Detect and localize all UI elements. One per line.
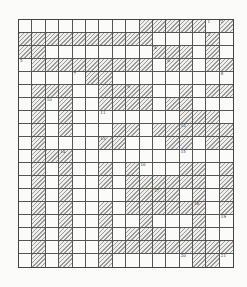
grid-cell[interactable] [19,111,32,124]
grid-cell[interactable] [86,124,99,137]
grid-cell[interactable] [73,124,86,137]
grid-cell[interactable] [86,150,99,163]
grid-cell[interactable] [99,46,112,59]
grid-cell[interactable] [19,85,32,98]
grid-cell[interactable] [73,46,86,59]
grid-cell[interactable] [73,98,86,111]
grid-cell[interactable] [206,176,219,189]
grid-cell[interactable] [99,20,112,33]
grid-cell[interactable] [193,98,206,111]
grid-cell[interactable] [153,59,166,72]
grid-cell[interactable] [193,137,206,150]
grid-cell[interactable] [99,150,112,163]
grid-cell[interactable] [73,20,86,33]
grid-cell[interactable]: 19 [220,215,233,228]
grid-cell[interactable] [113,72,126,85]
grid-cell[interactable] [86,46,99,59]
grid-cell[interactable] [206,189,219,202]
grid-cell[interactable] [46,241,59,254]
grid-cell[interactable] [19,163,32,176]
grid-cell[interactable] [73,137,86,150]
grid-cell[interactable] [59,72,72,85]
grid-cell[interactable] [220,228,233,241]
grid-cell[interactable] [206,150,219,163]
grid-cell[interactable] [19,189,32,202]
grid-cell[interactable] [220,111,233,124]
grid-cell[interactable] [220,98,233,111]
grid-cell[interactable]: 15 [180,150,193,163]
grid-cell[interactable] [113,202,126,215]
grid-cell[interactable] [193,33,206,46]
grid-cell[interactable] [113,111,126,124]
grid-cell[interactable] [73,228,86,241]
grid-cell[interactable] [86,20,99,33]
grid-cell[interactable] [206,72,219,85]
grid-cell[interactable] [193,85,206,98]
grid-cell[interactable] [46,20,59,33]
grid-cell[interactable] [73,150,86,163]
grid-cell[interactable] [126,150,139,163]
grid-cell[interactable] [140,124,153,137]
grid-cell[interactable] [113,176,126,189]
grid-cell[interactable]: 16 [140,163,153,176]
grid-cell[interactable] [153,85,166,98]
grid-cell[interactable] [153,98,166,111]
grid-cell[interactable] [86,137,99,150]
grid-cell[interactable] [73,176,86,189]
grid-cell[interactable] [19,72,32,85]
grid-cell[interactable] [166,111,179,124]
grid-cell[interactable] [140,46,153,59]
grid-cell[interactable] [140,137,153,150]
grid-cell[interactable] [193,150,206,163]
grid-cell[interactable] [46,215,59,228]
grid-cell[interactable] [193,59,206,72]
grid-cell[interactable] [113,215,126,228]
grid-cell[interactable] [206,98,219,111]
grid-cell[interactable] [180,72,193,85]
grid-cell[interactable] [86,85,99,98]
grid-cell[interactable]: 21 [220,254,233,267]
grid-cell[interactable] [73,85,86,98]
grid-cell[interactable] [153,163,166,176]
grid-cell[interactable] [46,189,59,202]
grid-cell[interactable] [140,111,153,124]
grid-cell[interactable] [126,215,139,228]
grid-cell[interactable] [73,215,86,228]
grid-cell[interactable] [46,72,59,85]
grid-cell[interactable] [206,202,219,215]
grid-cell[interactable] [166,72,179,85]
grid-cell[interactable] [180,215,193,228]
grid-cell[interactable] [46,176,59,189]
grid-cell[interactable] [193,72,206,85]
grid-cell[interactable]: 20 [180,254,193,267]
grid-cell[interactable] [19,254,32,267]
grid-cell[interactable] [86,98,99,111]
grid-cell[interactable] [86,176,99,189]
grid-cell[interactable] [86,241,99,254]
grid-cell[interactable] [113,150,126,163]
grid-cell[interactable] [220,33,233,46]
grid-cell[interactable] [113,20,126,33]
grid-cell[interactable] [206,228,219,241]
grid-cell[interactable] [73,241,86,254]
grid-cell[interactable] [206,163,219,176]
grid-cell[interactable] [73,163,86,176]
grid-cell[interactable] [220,150,233,163]
grid-cell[interactable]: 8 [220,72,233,85]
grid-cell[interactable] [86,228,99,241]
grid-cell[interactable] [46,202,59,215]
grid-cell[interactable] [126,137,139,150]
grid-cell[interactable] [126,254,139,267]
grid-cell[interactable] [19,241,32,254]
grid-cell[interactable] [140,72,153,85]
grid-cell[interactable] [32,72,45,85]
grid-cell[interactable] [153,137,166,150]
grid-cell[interactable] [166,215,179,228]
grid-cell[interactable] [126,46,139,59]
grid-cell[interactable] [113,228,126,241]
grid-cell[interactable] [46,228,59,241]
grid-cell[interactable] [19,215,32,228]
grid-cell[interactable] [46,163,59,176]
grid-cell[interactable] [86,111,99,124]
grid-cell[interactable] [46,46,59,59]
